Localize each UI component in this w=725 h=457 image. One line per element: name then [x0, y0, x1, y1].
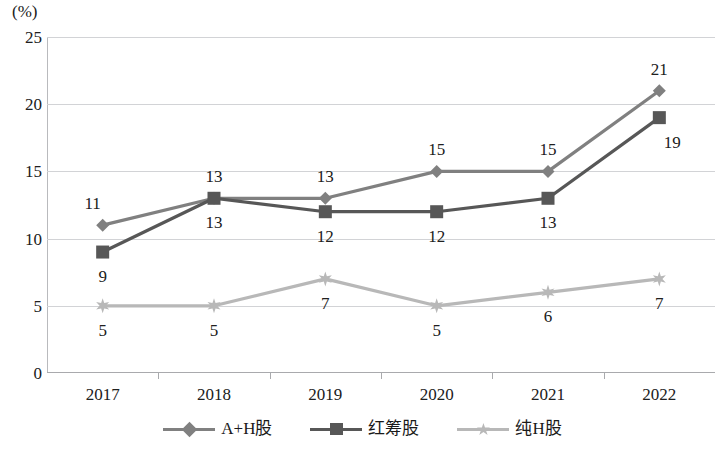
plot-area [47, 37, 715, 373]
data-label: 5 [98, 321, 107, 338]
x-axis-tick-label: 2018 [197, 386, 231, 404]
x-axis-tick-label: 2022 [642, 386, 676, 404]
data-label: 11 [84, 195, 100, 212]
x-axis-tick-mark [158, 373, 159, 379]
y-axis-unit-label: (%) [12, 2, 37, 21]
legend-label-0: A+H股 [221, 420, 272, 438]
data-label: 13 [317, 168, 334, 185]
legend-key-2 [457, 420, 509, 438]
x-axis-tick-mark [381, 373, 382, 379]
data-label: 13 [540, 214, 557, 231]
x-axis-tick-label: 2020 [420, 386, 454, 404]
gridline [47, 306, 715, 307]
x-axis-tick-mark [604, 373, 605, 379]
star-marker-icon [477, 423, 490, 435]
data-label: 21 [651, 60, 668, 77]
data-label: 12 [317, 227, 334, 244]
square-marker-icon [330, 423, 343, 435]
data-label: 9 [98, 268, 107, 285]
y-axis-tick-label: 5 [0, 297, 42, 314]
y-axis-tick-label: 10 [0, 230, 42, 247]
y-axis-line [47, 37, 48, 373]
data-label: 12 [428, 227, 445, 244]
legend-item-0[interactable]: A+H股 [163, 420, 272, 438]
y-axis-tick-label: 20 [0, 96, 42, 113]
x-axis-tick-label: 2017 [86, 386, 120, 404]
data-label: 13 [206, 168, 223, 185]
gridline [47, 239, 715, 240]
data-label: 15 [428, 141, 445, 158]
diamond-marker-icon [182, 421, 198, 437]
legend-item-1[interactable]: 红筹股 [310, 420, 419, 438]
data-label: 6 [544, 308, 553, 325]
x-axis-tick-label: 2021 [531, 386, 565, 404]
legend-key-1 [310, 420, 362, 438]
gridline [47, 104, 715, 105]
data-label: 7 [655, 294, 664, 311]
y-axis-tick-labels: 0510152025 [0, 37, 42, 373]
chart-legend: A+H股 红筹股 纯H股 [0, 420, 725, 438]
x-axis-tick-label: 2019 [308, 386, 342, 404]
legend-key-0 [163, 420, 215, 438]
y-axis-tick-label: 25 [0, 29, 42, 46]
legend-item-2[interactable]: 纯H股 [457, 420, 561, 438]
data-label: 5 [210, 321, 219, 338]
line-chart: (%) 0510152025 A+H股 红筹股 纯H股 [0, 0, 725, 457]
y-axis-tick-label: 15 [0, 163, 42, 180]
data-label: 15 [540, 141, 557, 158]
data-label: 19 [664, 133, 681, 150]
gridline [47, 171, 715, 172]
legend-label-1: 红筹股 [368, 420, 419, 438]
gridline [47, 37, 715, 38]
data-label: 7 [321, 294, 330, 311]
data-label: 13 [206, 214, 223, 231]
x-axis-tick-mark [270, 373, 271, 379]
data-label: 5 [432, 321, 441, 338]
x-axis-tick-mark [492, 373, 493, 379]
legend-label-2: 纯H股 [515, 420, 561, 438]
y-axis-tick-label: 0 [0, 365, 42, 382]
